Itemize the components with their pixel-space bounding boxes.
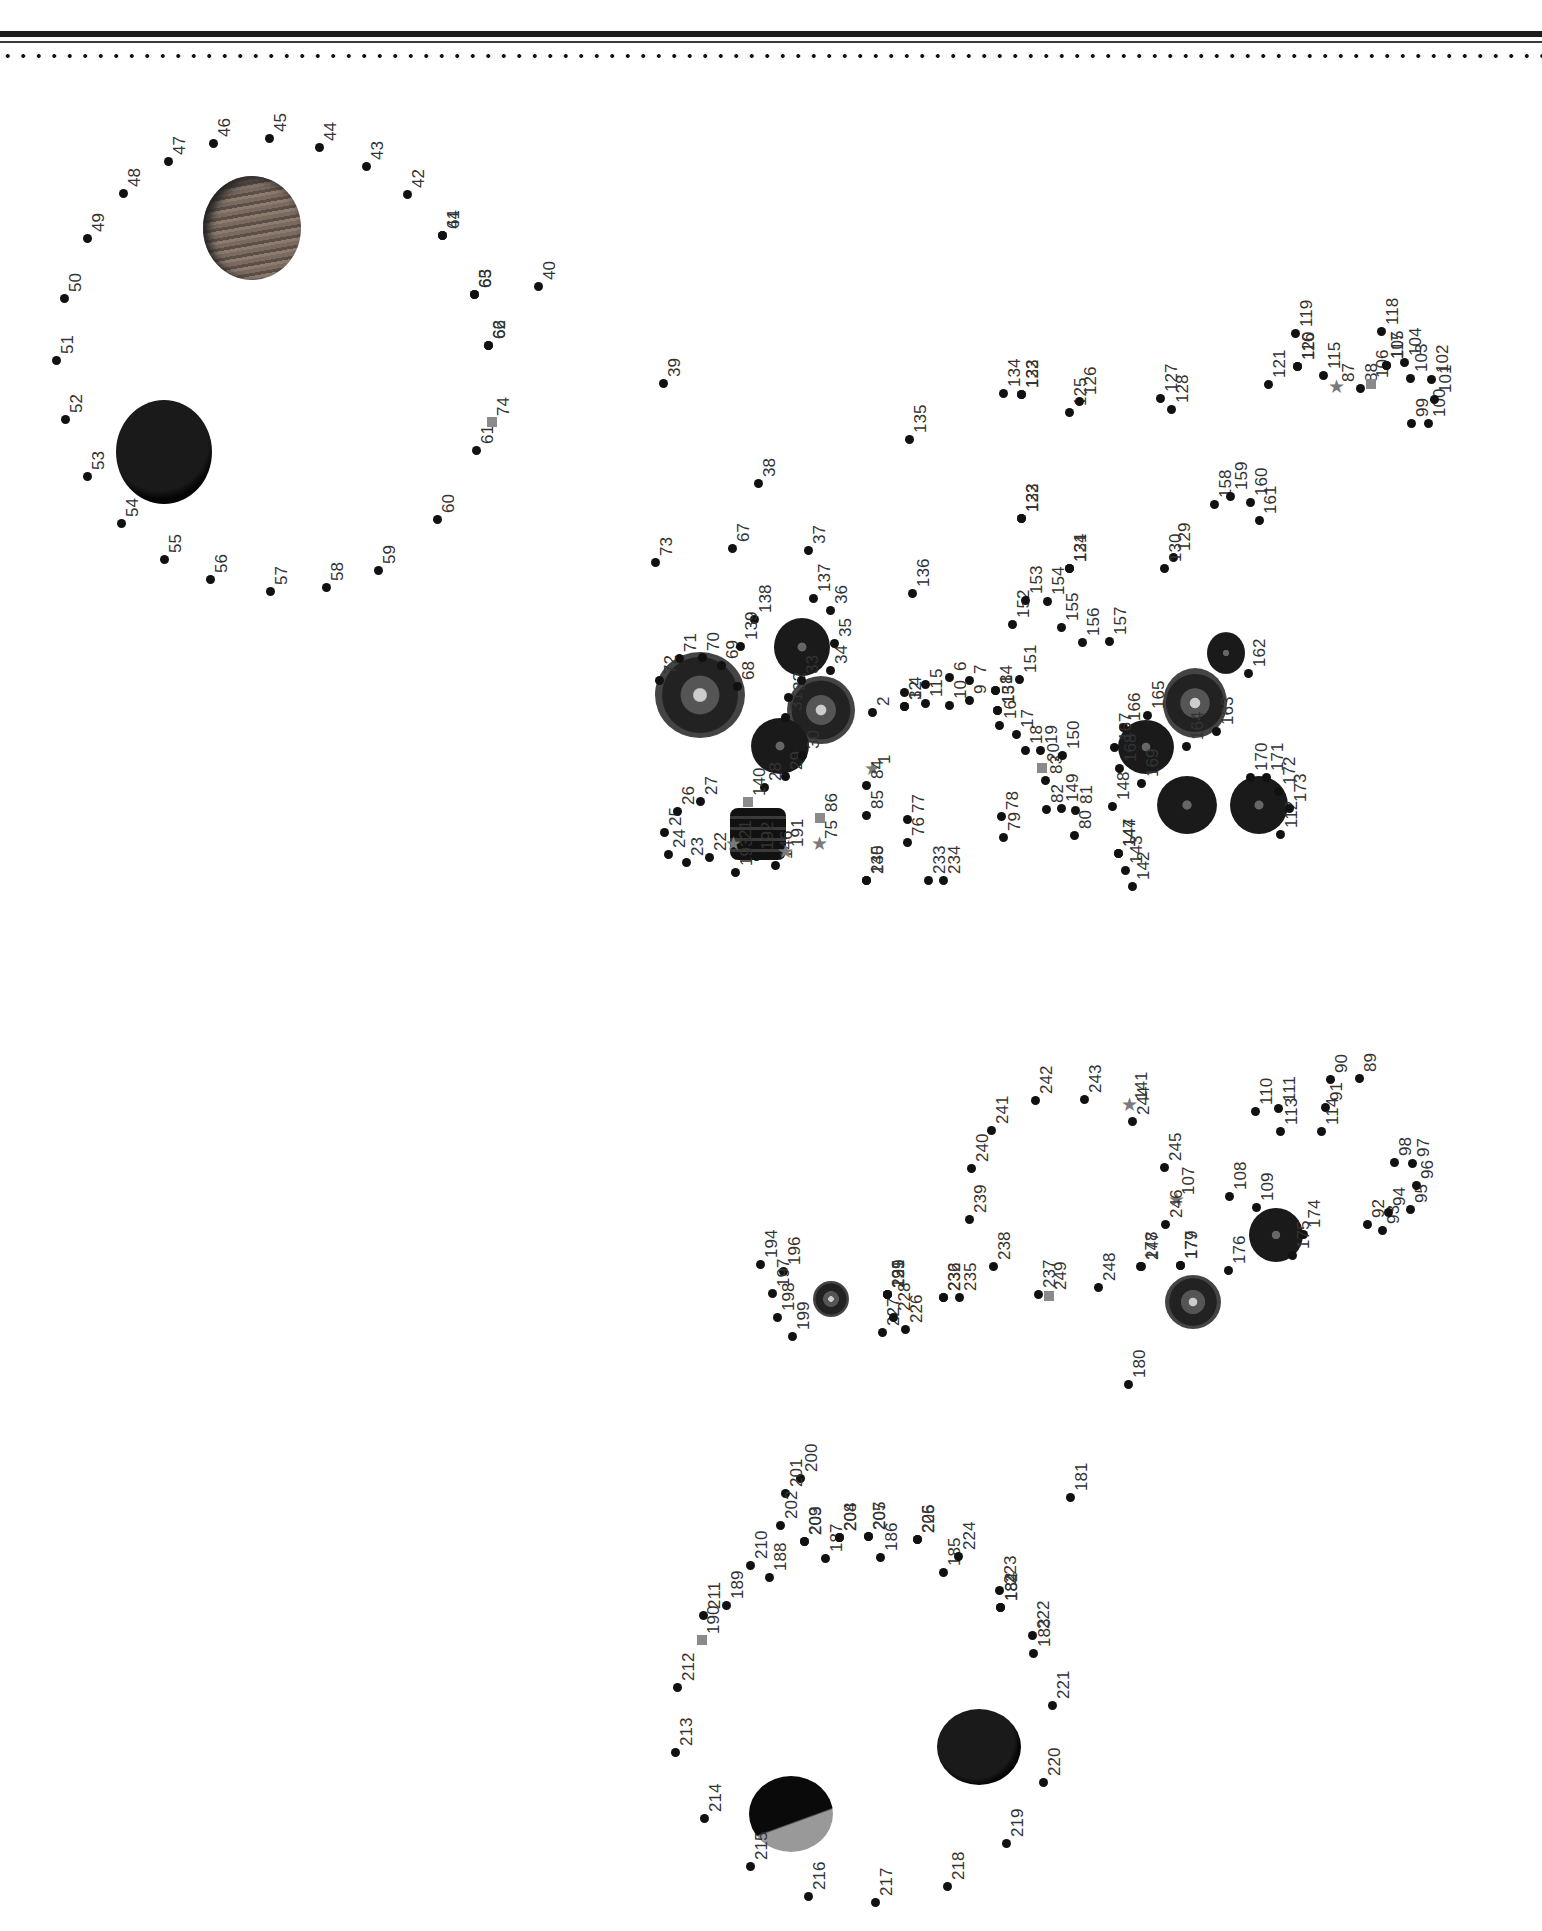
header-thin-rule xyxy=(0,41,1542,43)
dot-icon xyxy=(939,1293,948,1302)
dot-icon xyxy=(119,189,128,198)
point-number-label: 65 xyxy=(476,269,496,288)
dot-icon xyxy=(1378,1226,1387,1235)
point-number-label: 45 xyxy=(271,113,291,132)
point-number-label: 54 xyxy=(123,498,143,517)
point-number-label: 189 xyxy=(728,1571,748,1599)
point-number-label: 165 xyxy=(1149,681,1169,709)
point-number-label: 131 xyxy=(1071,534,1091,562)
point-number-label: 36 xyxy=(832,585,852,604)
dot-icon xyxy=(987,1126,996,1135)
dot-icon xyxy=(905,435,914,444)
dot-icon xyxy=(164,157,173,166)
dot-icon xyxy=(776,1521,785,1530)
dot-icon xyxy=(206,575,215,584)
point-number-label: 230 xyxy=(868,846,888,874)
point-number-label: 22 xyxy=(711,832,731,851)
dot-icon xyxy=(800,1537,809,1546)
dot-icon xyxy=(862,781,871,790)
dot-icon xyxy=(660,828,669,837)
dot-icon xyxy=(659,379,668,388)
dot-icon xyxy=(52,356,61,365)
dot-icon xyxy=(797,676,806,685)
dot-icon xyxy=(1212,727,1221,736)
dot-icon xyxy=(699,1611,708,1620)
dot-icon xyxy=(374,566,383,575)
point-number-label: 216 xyxy=(810,1862,830,1890)
point-number-label: 14 xyxy=(997,665,1017,684)
point-number-label: 247 xyxy=(1143,1232,1163,1260)
point-number-label: 211 xyxy=(705,1582,725,1609)
dot-icon xyxy=(924,876,933,885)
point-number-label: 181 xyxy=(1072,1463,1092,1491)
dot-icon xyxy=(1042,805,1051,814)
point-number-label: 39 xyxy=(665,358,685,377)
dot-icon xyxy=(1161,1220,1170,1229)
point-number-label: 109 xyxy=(1258,1173,1278,1201)
point-number-label: 248 xyxy=(1100,1253,1120,1281)
dot-icon xyxy=(696,797,705,806)
point-number-label: 42 xyxy=(409,169,429,188)
dot-icon xyxy=(943,1882,952,1891)
dot-icon xyxy=(265,134,274,143)
dot-icon xyxy=(781,772,790,781)
point-number-label: 49 xyxy=(89,213,109,232)
point-number-label: 102 xyxy=(1433,345,1453,373)
dot-icon xyxy=(1066,1493,1075,1502)
dot-icon xyxy=(804,1892,813,1901)
point-number-label: 98 xyxy=(1396,1137,1416,1156)
dot-icon xyxy=(1070,831,1079,840)
point-number-label: 72 xyxy=(661,655,681,674)
dot-icon xyxy=(1075,397,1084,406)
dot-icon xyxy=(1264,380,1273,389)
point-number-label: 164 xyxy=(1188,712,1208,740)
point-number-label: 155 xyxy=(1063,593,1083,621)
point-number-label: 249 xyxy=(1051,1262,1071,1290)
dot-icon xyxy=(1108,802,1117,811)
dot-icon xyxy=(736,642,745,651)
dot-icon xyxy=(1377,327,1386,336)
dot-icon xyxy=(965,1215,974,1224)
point-number-label: 231 xyxy=(889,1260,909,1288)
point-number-label: 225 xyxy=(919,1505,939,1533)
dot-icon xyxy=(61,415,70,424)
point-number-label: 53 xyxy=(89,451,109,470)
point-number-label: 132 xyxy=(1023,484,1043,512)
point-number-label: 6 xyxy=(951,662,971,671)
point-number-label: 96 xyxy=(1418,1160,1438,1179)
point-number-label: 117 xyxy=(1388,332,1408,359)
dot-icon xyxy=(83,472,92,481)
dot-icon xyxy=(903,815,912,824)
point-number-label: 191 xyxy=(788,819,808,847)
point-number-label: 118 xyxy=(1383,298,1403,325)
dot-icon xyxy=(1121,866,1130,875)
dot-icon xyxy=(1058,751,1067,760)
point-number-label: 47 xyxy=(170,136,190,155)
dot-icon xyxy=(1210,500,1219,509)
dot-icon xyxy=(83,234,92,243)
dot-icon xyxy=(403,190,412,199)
dot-icon xyxy=(664,850,673,859)
point-number-label: 27 xyxy=(702,776,722,795)
dot-icon xyxy=(862,811,871,820)
point-number-label: 37 xyxy=(810,525,830,544)
dot-icon xyxy=(821,1554,830,1563)
dot-icon xyxy=(1021,596,1030,605)
point-number-label: 55 xyxy=(166,534,186,553)
dot-icon xyxy=(1105,637,1114,646)
point-number-label: 221 xyxy=(1054,1671,1074,1699)
planet-dark-disc xyxy=(116,400,212,504)
dot-icon xyxy=(651,558,660,567)
dot-icon xyxy=(1317,1127,1326,1136)
dot-icon xyxy=(835,1533,844,1542)
dot-icon xyxy=(913,1535,922,1544)
dot-icon xyxy=(809,594,818,603)
dot-icon xyxy=(1071,806,1080,815)
point-number-label: 52 xyxy=(67,394,87,413)
point-number-label: 51 xyxy=(58,335,78,354)
point-number-label: 243 xyxy=(1086,1065,1106,1093)
dot-icon xyxy=(746,1561,755,1570)
dot-icon xyxy=(1285,804,1294,813)
point-number-label: 218 xyxy=(949,1852,969,1880)
dot-icon xyxy=(1406,1205,1415,1214)
